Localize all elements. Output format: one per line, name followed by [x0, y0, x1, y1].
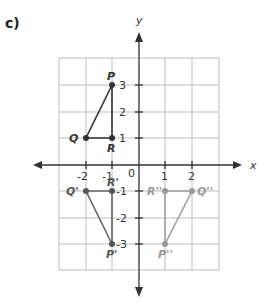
- origin-label: 0: [128, 167, 135, 180]
- y-tick-label: 3: [119, 79, 126, 92]
- point-label-p-double-prime: P'': [158, 248, 173, 261]
- y-tick-label: -3: [116, 238, 127, 251]
- y-tick-label: 2: [119, 106, 126, 119]
- x-axis-label: x: [249, 159, 257, 172]
- y-axis-up-arrow-icon: [135, 32, 143, 42]
- triangle-pqr-double-prime: P'' Q'' R'': [147, 185, 213, 261]
- y-tick-label: 1: [119, 132, 126, 145]
- point-label-r-prime: R': [107, 176, 119, 189]
- point-label-q: Q: [69, 132, 78, 145]
- x-tick-label: 1: [161, 170, 168, 183]
- point-label-r-double-prime: R'': [147, 185, 162, 198]
- x-tick-label: 2: [188, 170, 195, 183]
- point-label-q-prime: Q': [66, 185, 79, 198]
- point-label-p-prime: P': [106, 248, 117, 261]
- axes: [33, 32, 242, 297]
- x-axis-left-arrow-icon: [33, 161, 42, 169]
- x-tick-label: -2: [77, 170, 88, 183]
- point-label-r: R: [107, 142, 115, 155]
- y-tick-label: -2: [116, 212, 127, 225]
- coordinate-plane: x y -2 -1 0 1 2 3 2 1 -1 -2 -3 P Q R P' …: [0, 0, 269, 308]
- y-axis-down-arrow-icon: [135, 287, 143, 297]
- point-label-q-double-prime: Q'': [197, 185, 213, 198]
- point-label-p: P: [107, 70, 115, 83]
- y-axis-label: y: [135, 14, 143, 27]
- x-axis-right-arrow-icon: [233, 161, 242, 169]
